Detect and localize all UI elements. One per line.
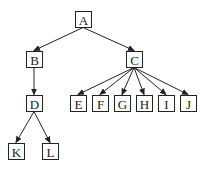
node-label: L: [47, 145, 55, 160]
node-label: B: [30, 53, 39, 68]
node-e: E: [71, 96, 87, 112]
edges-layer: [16, 28, 188, 143]
nodes-layer: ABCDEFGHIJKL: [9, 12, 197, 160]
node-h: H: [137, 96, 153, 112]
node-label: F: [97, 97, 104, 112]
edge-a-c: [83, 28, 134, 51]
node-l: L: [43, 144, 59, 160]
node-a: A: [76, 12, 92, 28]
node-c: C: [127, 52, 143, 68]
node-j: J: [181, 96, 197, 112]
node-label: K: [12, 145, 22, 160]
node-label: E: [75, 97, 83, 112]
edge-d-k: [16, 112, 34, 143]
node-label: H: [140, 97, 149, 112]
node-label: G: [118, 97, 127, 112]
edge-a-b: [34, 28, 83, 51]
edge-c-e: [78, 68, 134, 95]
node-label: J: [186, 97, 191, 112]
edge-c-g: [122, 68, 134, 95]
node-label: D: [30, 97, 39, 112]
node-label: C: [130, 53, 139, 68]
node-d: D: [27, 96, 43, 112]
node-b: B: [27, 52, 43, 68]
node-label: I: [164, 97, 168, 112]
node-label: A: [79, 13, 89, 28]
tree-diagram: ABCDEFGHIJKL: [0, 0, 206, 169]
node-k: K: [9, 144, 25, 160]
node-g: G: [115, 96, 131, 112]
node-i: I: [159, 96, 175, 112]
edge-d-l: [34, 112, 50, 143]
node-f: F: [93, 96, 109, 112]
